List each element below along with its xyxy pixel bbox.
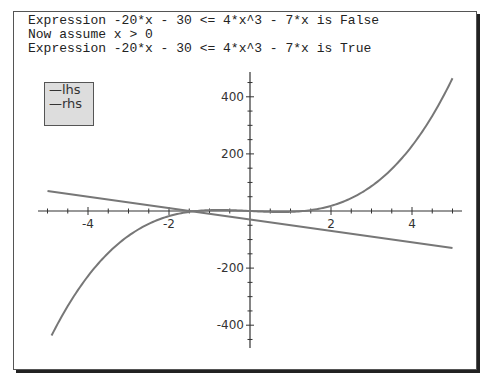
chart: -4-224400200-200-400	[0, 0, 489, 379]
y-tick-label: -400	[217, 318, 244, 332]
x-tick-label: 2	[327, 217, 335, 231]
legend-item-lhs: —lhs	[45, 83, 93, 97]
y-tick-label: -200	[217, 261, 244, 275]
x-tick-label: -2	[163, 217, 175, 231]
legend-item-rhs: —rhs	[45, 97, 93, 111]
y-tick-label: 200	[221, 147, 244, 161]
y-tick-label: 400	[221, 90, 244, 104]
legend: —lhs —rhs	[44, 82, 94, 126]
x-tick-label: -4	[82, 217, 94, 231]
x-tick-label: 4	[408, 217, 416, 231]
